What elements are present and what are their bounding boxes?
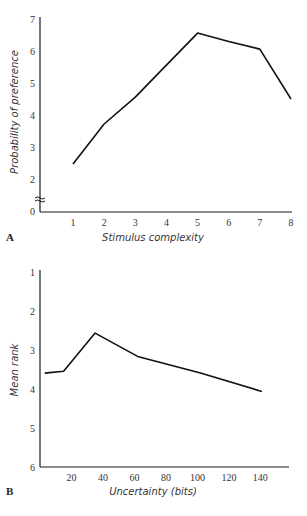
x-tick-label: 7 [257, 217, 262, 228]
y-tick-label: 4 [30, 110, 35, 121]
chart-a-y-label: Probability of preference [9, 50, 20, 174]
x-tick-label: 20 [66, 472, 76, 483]
y-tick-label: 3 [30, 142, 35, 153]
y-tick-label: 5 [30, 78, 35, 89]
y-tick-label: 3 [30, 345, 35, 356]
x-tick-label: 8 [288, 217, 293, 228]
x-tick-label: 5 [195, 217, 200, 228]
x-tick-label: 1 [71, 217, 76, 228]
y-tick-label: 2 [30, 174, 35, 185]
panel-label-b: B [6, 485, 14, 497]
chart-a-line [73, 33, 291, 164]
x-tick-label: 60 [129, 472, 139, 483]
x-tick-label: 3 [133, 217, 138, 228]
y-tick-label: 0 [30, 206, 35, 217]
y-tick-label: 4 [30, 384, 35, 395]
y-tick-label: 1 [30, 267, 35, 278]
y-tick-label: 2 [30, 306, 35, 317]
chart-b-x-ticks: 20406080100120140 [66, 472, 267, 483]
y-tick-label: 6 [30, 462, 35, 473]
chart-b-y-label: Mean rank [9, 342, 20, 396]
chart-a-x-label: Stimulus complexity [102, 232, 205, 243]
x-tick-label: 40 [98, 472, 108, 483]
x-tick-label: 6 [226, 217, 231, 228]
x-tick-label: 100 [190, 472, 205, 483]
chart-b: 123456 20406080100120140 Mean rank Uncer… [6, 267, 289, 497]
chart-b-line [45, 333, 262, 391]
y-tick-label: 5 [30, 423, 35, 434]
y-tick-label: 6 [30, 46, 35, 57]
x-tick-label: 2 [102, 217, 107, 228]
chart-b-x-label: Uncertainty (bits) [109, 486, 197, 497]
chart-b-y-ticks: 123456 [30, 267, 35, 473]
y-tick-label: 7 [30, 14, 35, 25]
x-tick-label: 120 [221, 472, 236, 483]
panel-label-a: A [6, 231, 14, 243]
x-tick-label: 4 [164, 217, 169, 228]
chart-a: 0234567 12345678 Probability of preferen… [6, 14, 293, 243]
figure: 0234567 12345678 Probability of preferen… [0, 0, 307, 516]
x-tick-label: 140 [253, 472, 268, 483]
chart-a-x-ticks: 12345678 [71, 217, 294, 228]
x-tick-label: 80 [161, 472, 171, 483]
chart-a-y-ticks: 0234567 [30, 14, 35, 217]
